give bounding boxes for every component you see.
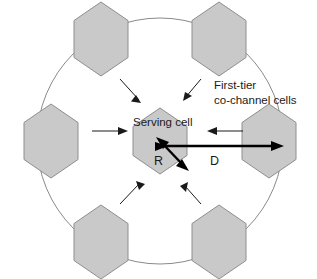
pointer-arrow-from-bottom-left [120,181,145,204]
cochannel-diagram: Serving cell First-tier co-channel cells… [0,0,317,279]
pointer-arrow-from-left [92,127,128,135]
serving-cell-label: Serving cell [133,116,192,128]
diagram-canvas: Serving cell First-tier co-channel cells… [0,0,317,279]
co-channel-cell-bottom-left [74,205,128,279]
co-channel-cell-top-left [74,2,128,76]
pointer-arrow-from-right [207,127,243,135]
radius-label: R [154,154,163,168]
pointer-arrow-from-top-left [120,79,141,103]
first-tier-label-line1: First-tier [214,79,256,91]
co-channel-cell-top-right [192,2,246,76]
first-tier-label-line2: co-channel cells [214,94,297,106]
co-channel-cell-left [24,104,78,178]
pointer-arrow-from-top-right [183,79,201,101]
pointer-arrow-from-bottom-right [180,182,201,204]
co-channel-cell-right [242,104,296,178]
co-channel-cell-bottom-right [192,205,246,279]
distance-label: D [210,154,219,168]
